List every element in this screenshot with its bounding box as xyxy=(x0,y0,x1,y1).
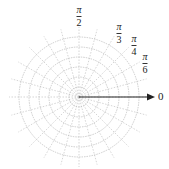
polar-grid-diagram: π 2 π 3 π 4 π 6 0 xyxy=(0,0,169,169)
spoke-line xyxy=(79,97,128,146)
spoke-line xyxy=(79,48,128,97)
polar-grid xyxy=(0,0,169,169)
spoke-line xyxy=(61,97,79,165)
spoke-line xyxy=(30,97,79,146)
spoke-line xyxy=(79,97,97,165)
spoke-line xyxy=(79,97,114,158)
spoke-line xyxy=(44,36,79,97)
label-pi-over-3: π 3 xyxy=(116,22,121,45)
spoke-line xyxy=(61,29,79,97)
spoke-line xyxy=(79,79,147,97)
arrow-head-icon xyxy=(147,94,155,101)
label-pi-over-6: π 6 xyxy=(142,52,147,75)
spoke-line xyxy=(79,97,147,115)
spoke-line xyxy=(11,97,79,115)
label-pi-over-4: π 4 xyxy=(131,34,136,57)
spoke-line xyxy=(79,97,140,132)
label-pi-over-2: π 2 xyxy=(76,5,81,28)
spoke-line xyxy=(11,79,79,97)
polar-axis-label: 0 xyxy=(158,90,164,102)
spoke-line xyxy=(79,29,97,97)
spoke-line xyxy=(18,62,79,97)
spoke-line xyxy=(30,48,79,97)
